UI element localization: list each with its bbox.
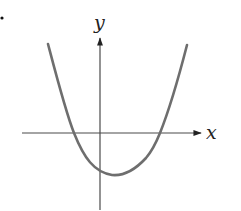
parabola-curve	[48, 44, 187, 175]
y-axis-label: y	[93, 11, 105, 33]
x-axis-label: x	[206, 121, 217, 143]
bullet-dot	[0, 16, 3, 19]
parabola-graph: y x	[0, 0, 241, 211]
